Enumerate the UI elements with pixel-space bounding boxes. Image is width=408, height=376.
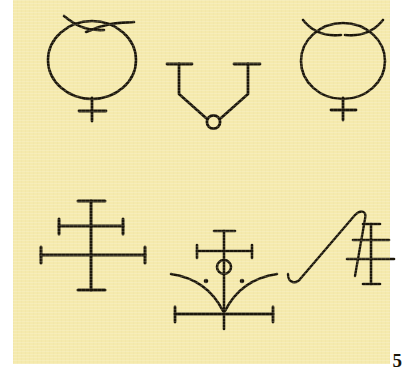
- symbol-circle-with-horns-and-cross: [291, 10, 395, 122]
- plate-number: 5: [393, 351, 403, 370]
- plate-page: 5: [0, 0, 408, 376]
- symbol-double-cross-serif: [35, 193, 155, 298]
- symbol-plate: [13, 0, 390, 364]
- symbol-v-shape-with-capped-arms-and-circle: [161, 56, 266, 138]
- symbol-cross-circle-arcs-with-dots: [165, 225, 283, 333]
- symbol-circle-with-crossed-horns-and-cross: [38, 8, 148, 123]
- symbol-hooked-stroke-with-double-cross: [281, 204, 397, 294]
